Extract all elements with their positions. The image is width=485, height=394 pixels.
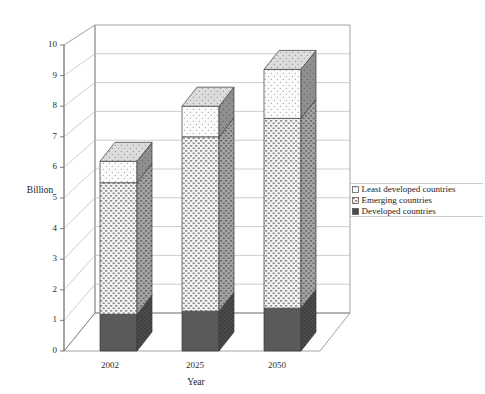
y-tick-7: 7 [53,131,58,141]
stacked-column-chart: 0 1 2 3 4 5 6 7 8 9 10 Billion [0,0,485,394]
bar-2050-emerging-side[interactable] [301,99,316,308]
y-tick-3: 3 [53,253,58,263]
legend-swatch-least-developed[interactable] [353,187,359,193]
bar-2025-emerging-front[interactable] [182,137,219,311]
y-tick-6: 6 [53,161,58,171]
chart-container: 0 1 2 3 4 5 6 7 8 9 10 Billion [0,0,485,394]
bar-2002-emerging-front[interactable] [100,183,137,315]
y-axis-title: Billion [27,185,54,195]
y-tick-1: 1 [53,314,58,324]
bar-2050-developed-front[interactable] [264,308,301,351]
bar-group-2025[interactable] [182,87,234,351]
legend-label-least-developed[interactable]: Least developed countries [362,184,456,194]
x-tick-labels: 2002 2025 2050 [101,360,287,370]
bar-2025-developed-front[interactable] [182,311,219,351]
legend-swatch-developed[interactable] [353,209,359,215]
bar-2002-least-front[interactable] [100,161,137,182]
y-tick-2: 2 [53,284,58,294]
y-tick-9: 9 [53,70,58,80]
x-axis-title: Year [187,377,205,387]
legend[interactable]: Least developed countries Emerging count… [350,184,483,217]
bar-2050-emerging-front[interactable] [264,118,301,308]
bar-2025-emerging-side[interactable] [219,118,234,311]
y-tick-8: 8 [53,100,58,110]
bar-2002-emerging-side[interactable] [137,164,152,315]
y-tick-10: 10 [48,39,58,49]
bar-group-2002[interactable] [100,142,152,351]
bar-2025-least-front[interactable] [182,106,219,137]
y-tick-labels: 0 1 2 3 4 5 6 7 8 9 10 [48,39,58,355]
x-tick-2025: 2025 [186,360,205,370]
x-tick-2050: 2050 [268,360,287,370]
bar-group-2050[interactable] [264,50,316,351]
y-tick-0: 0 [53,345,58,355]
x-tick-2002: 2002 [101,360,119,370]
legend-swatch-emerging[interactable] [353,198,359,204]
bar-2002-developed-front[interactable] [100,314,137,351]
legend-label-developed[interactable]: Developed countries [362,206,437,216]
y-tick-4: 4 [53,223,58,233]
y-tick-5: 5 [53,192,58,202]
legend-label-emerging[interactable]: Emerging countries [362,195,433,205]
bar-2050-least-front[interactable] [264,69,301,118]
y-axis [60,45,64,351]
